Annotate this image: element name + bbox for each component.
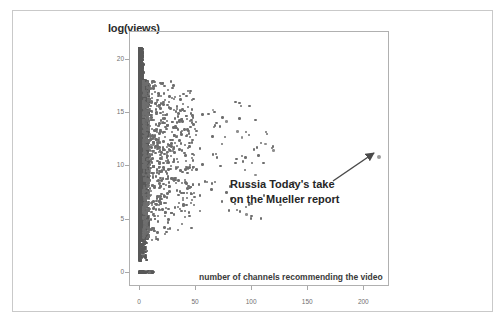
- data-point: [181, 223, 183, 225]
- data-point: [184, 154, 186, 156]
- data-point: [256, 146, 259, 149]
- data-point: [178, 148, 180, 150]
- data-point: [190, 192, 193, 195]
- annotation-text: Russia Today's take on the Mueller repor…: [230, 177, 339, 207]
- data-point: [141, 54, 143, 56]
- x-tick-label: 200: [351, 290, 375, 299]
- x-tick-text: 100: [246, 298, 257, 305]
- data-point: [154, 138, 156, 140]
- data-point: [241, 136, 244, 139]
- data-point: [185, 115, 187, 117]
- data-point: [144, 254, 146, 256]
- data-point: [186, 197, 188, 199]
- data-point: [158, 104, 161, 107]
- data-point: [240, 105, 243, 108]
- data-point: [138, 254, 140, 256]
- data-point: [179, 98, 181, 100]
- data-point: [221, 116, 224, 119]
- data-point: [198, 183, 201, 186]
- data-point: [155, 175, 157, 177]
- data-point: [147, 120, 149, 122]
- data-point: [142, 158, 144, 160]
- data-point: [180, 142, 182, 144]
- data-point: [173, 146, 175, 148]
- data-point: [204, 180, 207, 183]
- data-point: [151, 239, 153, 241]
- data-point: [201, 113, 204, 116]
- data-point: [147, 202, 149, 204]
- data-point: [181, 182, 183, 184]
- data-point: [143, 112, 145, 114]
- data-point: [158, 162, 161, 165]
- data-point: [260, 142, 263, 145]
- data-point: [241, 155, 244, 158]
- data-point: [167, 218, 169, 220]
- data-point: [164, 215, 166, 217]
- data-point: [151, 172, 153, 174]
- data-point: [176, 145, 179, 148]
- data-point: [152, 141, 154, 143]
- data-point: [167, 89, 169, 91]
- x-tick-mark: [195, 286, 196, 290]
- data-point: [162, 111, 164, 113]
- data-point: [138, 171, 140, 173]
- data-point: [140, 69, 142, 71]
- data-point: [185, 160, 187, 162]
- data-point: [192, 123, 194, 125]
- data-point: [242, 160, 245, 163]
- data-point: [143, 137, 145, 139]
- data-point: [163, 226, 165, 228]
- data-point: [260, 217, 263, 220]
- data-point: [151, 153, 153, 155]
- data-point: [272, 149, 275, 152]
- data-point: [155, 203, 157, 205]
- y-tick-mark: [125, 112, 129, 113]
- data-point: [163, 202, 165, 204]
- data-point: [176, 105, 178, 107]
- data-point: [154, 91, 156, 93]
- data-point: [146, 86, 148, 88]
- data-point: [149, 179, 151, 181]
- x-tick-mark: [307, 286, 308, 290]
- data-point: [140, 96, 142, 98]
- data-point: [148, 146, 150, 148]
- y-tick-text: 0: [120, 268, 124, 275]
- x-tick-text: 0: [137, 298, 141, 305]
- data-point: [149, 149, 151, 151]
- data-point: [183, 152, 185, 154]
- y-tick-label: 20: [106, 55, 124, 63]
- data-point: [155, 238, 157, 240]
- data-point: [179, 95, 181, 97]
- data-point: [166, 113, 168, 115]
- data-point: [206, 181, 209, 184]
- x-tick-text: 200: [358, 298, 369, 305]
- data-point: [170, 212, 172, 214]
- data-point: [182, 199, 184, 201]
- data-point: [143, 241, 145, 243]
- data-point: [211, 135, 214, 138]
- data-point: [190, 227, 192, 229]
- data-point: [179, 169, 182, 172]
- data-point: [225, 120, 228, 123]
- data-point: [180, 133, 182, 135]
- data-point: [173, 134, 176, 137]
- data-point: [221, 143, 224, 146]
- data-point: [162, 162, 165, 165]
- data-point: [150, 218, 152, 220]
- data-point: [173, 151, 175, 153]
- data-point: [165, 231, 167, 233]
- data-point: [163, 85, 165, 87]
- data-point: [142, 56, 144, 58]
- data-point: [158, 122, 161, 125]
- data-point: [150, 101, 152, 103]
- data-point: [257, 154, 260, 157]
- data-point: [216, 156, 219, 159]
- data-point: [152, 150, 154, 152]
- data-point: [177, 194, 179, 196]
- data-point: [157, 215, 159, 217]
- data-point: [167, 168, 169, 170]
- data-point: [234, 162, 237, 165]
- data-point: [234, 101, 237, 104]
- data-point: [146, 158, 148, 160]
- data-point: [159, 107, 162, 110]
